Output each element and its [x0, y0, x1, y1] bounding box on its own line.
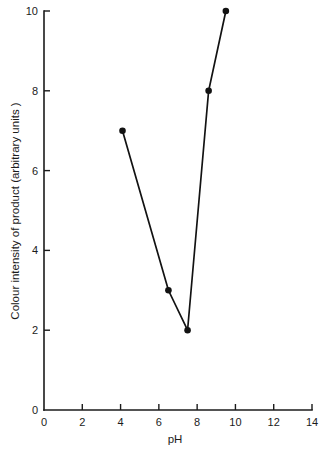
y-tick-label-8: 8 — [32, 85, 38, 97]
data-point-0 — [119, 127, 126, 134]
y-axis-ticks — [44, 11, 50, 330]
y-tick-label-4: 4 — [32, 244, 38, 256]
y-tick-label-2: 2 — [32, 324, 38, 336]
chart-figure: 02468101214 0246810 pH Colour intensity … — [0, 0, 322, 451]
data-point-2 — [184, 327, 191, 334]
axes-group — [44, 11, 312, 410]
data-series-group — [119, 8, 229, 334]
data-point-1 — [165, 287, 172, 294]
x-axis-tick-labels: 02468101214 — [41, 416, 318, 428]
x-tick-label-10: 10 — [229, 416, 241, 428]
series-line-colour-intensity — [122, 11, 225, 330]
y-tick-label-0: 0 — [32, 404, 38, 416]
y-tick-label-10: 10 — [26, 5, 38, 17]
y-axis-title: Colour intensity of product (arbitrary u… — [9, 102, 21, 319]
data-point-3 — [205, 88, 212, 95]
x-tick-label-6: 6 — [156, 416, 162, 428]
x-tick-label-12: 12 — [268, 416, 280, 428]
chart-svg: 02468101214 0246810 pH Colour intensity … — [0, 0, 322, 451]
x-tick-label-0: 0 — [41, 416, 47, 428]
x-axis-title: pH — [168, 433, 183, 445]
x-tick-label-8: 8 — [194, 416, 200, 428]
y-axis-tick-labels: 0246810 — [26, 5, 38, 416]
x-tick-label-2: 2 — [79, 416, 85, 428]
x-axis-ticks — [82, 404, 312, 410]
x-tick-label-4: 4 — [118, 416, 124, 428]
y-tick-label-6: 6 — [32, 165, 38, 177]
data-point-4 — [223, 8, 230, 15]
series-markers — [119, 8, 229, 334]
x-tick-label-14: 14 — [306, 416, 318, 428]
